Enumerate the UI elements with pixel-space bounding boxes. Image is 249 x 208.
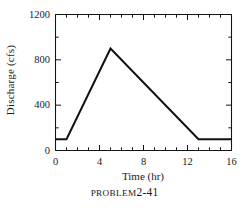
- series-line-0: [56, 49, 232, 140]
- x-axis-title-text: Time (hr): [122, 170, 164, 182]
- figure-caption: PROBLEM2-41: [0, 186, 249, 200]
- data-series-lines: [56, 49, 232, 140]
- x-axis-title: Time (hr): [55, 170, 231, 183]
- figure-problem-2-41: Discharge (cfs) 04008001200 0481216 Time…: [0, 0, 249, 208]
- caption-number: 2-41: [136, 186, 158, 198]
- caption-prefix: PROBLEM: [91, 188, 137, 198]
